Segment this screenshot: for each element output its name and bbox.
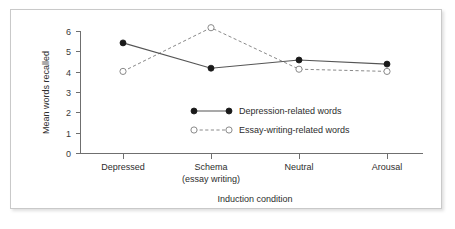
figure-frame: 6 5 4 3 2 1 0 Mean words recalled Depres… bbox=[10, 9, 442, 209]
x-category-label-schema: Schema bbox=[194, 162, 227, 172]
x-category-label-schema-sub: (essay writing) bbox=[182, 174, 240, 184]
line-chart: 6 5 4 3 2 1 0 Mean words recalled Depres… bbox=[11, 10, 441, 208]
legend-marker-open-left bbox=[191, 127, 197, 133]
series-1-point-neutral bbox=[296, 57, 302, 63]
series-2-line bbox=[123, 28, 387, 72]
series-2-point-depressed bbox=[120, 68, 126, 74]
legend-marker-filled-left bbox=[191, 108, 197, 114]
series-depression-related-words bbox=[120, 40, 390, 71]
legend-marker-filled-right bbox=[226, 108, 232, 114]
chart-legend: Depression-related words Essay-writing-r… bbox=[191, 106, 350, 135]
series-2-point-arousal bbox=[384, 68, 390, 74]
y-tick-label-1: 1 bbox=[66, 129, 71, 139]
x-category-label-arousal: Arousal bbox=[372, 162, 403, 172]
series-essay-writing-related-words bbox=[120, 25, 390, 75]
y-tick-label-0: 0 bbox=[66, 149, 71, 159]
y-axis: 6 5 4 3 2 1 0 Mean words recalled bbox=[41, 27, 81, 159]
y-tick-label-4: 4 bbox=[66, 68, 71, 78]
figure-root: 6 5 4 3 2 1 0 Mean words recalled Depres… bbox=[0, 0, 455, 229]
series-1-point-arousal bbox=[384, 61, 390, 67]
x-axis-title: Induction condition bbox=[217, 194, 292, 204]
x-axis: Depressed Schema (essay writing) Neutral… bbox=[81, 154, 424, 205]
legend-item-essay-writing-related-words[interactable]: Essay-writing-related words bbox=[191, 125, 350, 135]
series-2-point-neutral bbox=[296, 66, 302, 72]
y-tick-label-5: 5 bbox=[66, 47, 71, 57]
legend-marker-open-right bbox=[226, 127, 232, 133]
series-1-point-schema bbox=[208, 65, 214, 71]
series-2-point-schema bbox=[208, 25, 214, 31]
series-1-line bbox=[123, 43, 387, 68]
legend-label-depression-related-words: Depression-related words bbox=[239, 106, 342, 116]
y-tick-label-3: 3 bbox=[66, 88, 71, 98]
legend-label-essay-writing-related-words: Essay-writing-related words bbox=[239, 125, 350, 135]
x-category-label-depressed: Depressed bbox=[101, 162, 145, 172]
series-1-point-depressed bbox=[120, 40, 126, 46]
y-axis-title: Mean words recalled bbox=[41, 51, 51, 134]
x-category-label-neutral: Neutral bbox=[284, 162, 313, 172]
legend-item-depression-related-words[interactable]: Depression-related words bbox=[191, 106, 342, 116]
y-tick-label-2: 2 bbox=[66, 108, 71, 118]
y-tick-label-6: 6 bbox=[66, 27, 71, 37]
